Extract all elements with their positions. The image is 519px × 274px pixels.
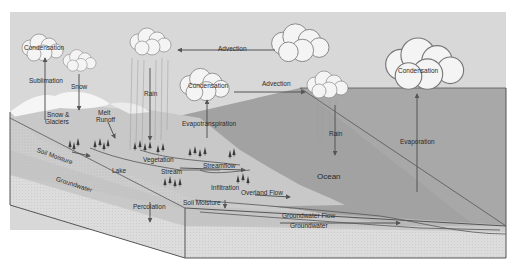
- label-advection-top: Advection: [218, 46, 247, 53]
- label-vegetation: Vegetation: [143, 157, 174, 164]
- label-evapotranspiration: Evapotranspiration: [182, 121, 236, 128]
- label-groundwater-flow: Groundwater Flow: [282, 213, 335, 220]
- diagram-artwork: [0, 0, 519, 274]
- label-ocean: Ocean: [317, 173, 341, 181]
- label-rain-left: Rain: [144, 91, 157, 98]
- label-overland-flow: Overland Flow: [241, 190, 283, 197]
- label-streamflow: Streamflow: [203, 163, 236, 170]
- label-rain-right: Rain: [329, 131, 342, 138]
- label-condensation-right: Condensation: [398, 68, 438, 75]
- label-infiltration: Infiltration: [211, 185, 239, 192]
- label-condensation-left: Condensation: [24, 45, 64, 52]
- label-percolation: Percolation: [133, 204, 166, 211]
- label-melt-runoff-line2: Runoff: [96, 117, 115, 124]
- label-advection-middle: Advection: [262, 81, 291, 88]
- label-sublimation: Sublimation: [29, 78, 63, 85]
- label-snow: Snow: [71, 84, 87, 91]
- label-stream: Stream: [161, 169, 182, 176]
- label-evaporation: Evaporation: [400, 139, 435, 146]
- water-cycle-diagram: Condensation Sublimation Snow Snow & Gla…: [0, 0, 519, 274]
- label-groundwater-lower: Groundwater: [290, 223, 328, 230]
- label-condensation-middle: Condensation: [188, 83, 228, 90]
- label-lake: Lake: [112, 168, 126, 175]
- label-soil-moisture-lower: Soil Moisture: [183, 200, 221, 207]
- label-snow-glaciers-line2: Glaciers: [45, 119, 69, 126]
